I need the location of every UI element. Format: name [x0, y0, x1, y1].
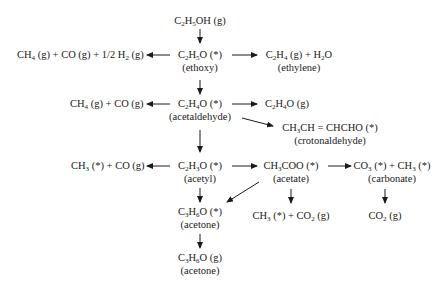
formula: CH4 (g) + CO (g) + 1/2 H2 (g)	[17, 48, 144, 61]
node-acetaldehyde-decomposition: CH4 (g) + CO (g)	[70, 97, 144, 110]
species-label: (acetone)	[165, 264, 235, 277]
formula: CH3CH = CHCHO (*)	[280, 121, 380, 134]
node-acetyl-decomposition: CH3 (*) + CO (g)	[71, 159, 145, 172]
node-acetyl: C2H3O (*) (acetyl)	[165, 159, 235, 185]
formula: CO2 (g)	[360, 209, 410, 222]
node-co2-gas: CO2 (g)	[360, 209, 410, 222]
species-label: (carbonate)	[352, 172, 432, 185]
formula: C3H6O (g)	[165, 251, 235, 264]
species-label: (acetaldehyde)	[160, 110, 240, 123]
formula: C2H4O (*)	[160, 97, 240, 110]
formula: C3H6O (*)	[165, 205, 235, 218]
formula: C2H4O (g)	[265, 97, 309, 110]
node-acetaldehyde-gas: C2H4O (g)	[265, 97, 309, 110]
node-acetate-decomposition: CH3 (*) + CO2 (g)	[250, 209, 332, 222]
formula: C2H5OH (g)	[160, 14, 240, 27]
formula: CH3 (*) + CO (g)	[71, 159, 145, 172]
species-label: (ethoxy)	[165, 61, 235, 74]
formula: CH4 (g) + CO (g)	[70, 97, 144, 110]
formula: CH3COO (*)	[258, 159, 324, 172]
node-crotonaldehyde: CH3CH = CHCHO (*) (crotonaldehyde)	[280, 121, 380, 147]
node-acetate: CH3COO (*) (acetate)	[258, 159, 324, 185]
node-acetone-gas: C3H6O (g) (acetone)	[165, 251, 235, 277]
species-label: (acetone)	[165, 218, 235, 231]
arrow-acetate-to-acetone	[227, 182, 259, 202]
arrow-acetaldehyde-to-crotonaldehyde	[242, 118, 273, 126]
formula: C2H4 (g) + H2O	[262, 48, 336, 61]
formula: CH3 (*) + CO2 (g)	[250, 209, 332, 222]
node-ethoxy-decomposition: CH4 (g) + CO (g) + 1/2 H2 (g)	[17, 48, 144, 61]
formula: CO3 (*) + CH3 (*)	[352, 159, 432, 172]
node-acetaldehyde: C2H4O (*) (acetaldehyde)	[160, 97, 240, 123]
species-label: (ethylene)	[262, 61, 336, 74]
node-acetone-adsorbed: C3H6O (*) (acetone)	[165, 205, 235, 231]
formula: C2H5O (*)	[165, 48, 235, 61]
species-label: (crotonaldehyde)	[280, 134, 380, 147]
node-ethoxy: C2H5O (*) (ethoxy)	[165, 48, 235, 74]
formula: C2H3O (*)	[165, 159, 235, 172]
node-ethylene: C2H4 (g) + H2O (ethylene)	[262, 48, 336, 74]
node-ethanol-gas: C2H5OH (g)	[160, 14, 240, 27]
node-carbonate: CO3 (*) + CH3 (*) (carbonate)	[352, 159, 432, 185]
species-label: (acetate)	[258, 172, 324, 185]
species-label: (acetyl)	[165, 172, 235, 185]
